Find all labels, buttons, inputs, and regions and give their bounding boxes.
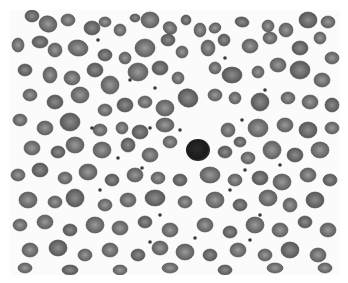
red-blood-cell [145, 190, 165, 206]
red-blood-cell [221, 123, 235, 137]
platelet [178, 128, 182, 132]
red-blood-cell [229, 92, 241, 104]
red-blood-cell [131, 249, 145, 261]
red-blood-cell [208, 89, 222, 101]
red-blood-cell [162, 263, 178, 273]
red-blood-cell [58, 172, 72, 184]
red-blood-cell [43, 67, 57, 83]
red-blood-cell [323, 174, 337, 186]
red-blood-cell [62, 265, 78, 275]
platelet [98, 188, 102, 192]
platelet [263, 88, 267, 92]
red-blood-cell [32, 36, 48, 48]
red-blood-cell [161, 34, 175, 46]
red-blood-cell [163, 136, 177, 148]
platelet [193, 236, 197, 240]
red-blood-cell [290, 61, 310, 79]
red-blood-cell [283, 198, 297, 212]
red-blood-cell [173, 174, 187, 186]
red-blood-cell [116, 122, 128, 134]
red-blood-cell [93, 142, 111, 158]
red-blood-cell [281, 92, 295, 104]
red-blood-cell [102, 243, 118, 257]
red-blood-cell [138, 96, 152, 108]
red-blood-cell [101, 76, 119, 94]
red-blood-cell [18, 64, 32, 76]
platelet [90, 126, 94, 130]
red-blood-cell [61, 14, 75, 26]
red-blood-cell [117, 98, 133, 112]
red-blood-cell [48, 196, 62, 208]
red-blood-cell [60, 113, 80, 131]
red-blood-cell [252, 171, 268, 185]
red-blood-cell [86, 217, 104, 233]
red-blood-cell [130, 14, 140, 22]
red-blood-cell [311, 142, 329, 158]
red-blood-cell [321, 16, 335, 28]
red-blood-cell [79, 164, 97, 180]
red-blood-cell [197, 218, 213, 232]
red-blood-cell [218, 265, 232, 275]
red-blood-cell [302, 95, 318, 109]
red-blood-cell [138, 216, 152, 228]
red-blood-cell [132, 125, 148, 139]
red-blood-cell [228, 174, 242, 186]
red-blood-cell [13, 219, 27, 231]
red-blood-cell [263, 32, 277, 44]
red-blood-cell [23, 89, 37, 101]
red-blood-cell [206, 192, 224, 208]
red-blood-cell [203, 249, 217, 261]
red-blood-cell [287, 148, 303, 162]
red-blood-cell [99, 17, 111, 27]
red-blood-cell [64, 71, 80, 85]
red-blood-cell [277, 118, 293, 132]
red-blood-cell [299, 12, 317, 28]
red-blood-cell [310, 248, 326, 262]
platelet [258, 213, 262, 217]
red-blood-cell [218, 146, 232, 158]
red-blood-cell [314, 32, 326, 44]
red-blood-cell [194, 23, 206, 37]
red-blood-cell [299, 122, 317, 138]
red-blood-cell [251, 93, 269, 111]
red-blood-cell [181, 15, 191, 25]
red-blood-cell [152, 61, 168, 75]
red-blood-cell [48, 43, 62, 57]
red-blood-cell [47, 95, 63, 109]
red-blood-cell [87, 63, 103, 77]
red-blood-cell [279, 23, 293, 37]
red-blood-cell [135, 39, 155, 57]
red-blood-cell [218, 34, 230, 46]
red-blood-cell [233, 199, 247, 211]
red-blood-cell [71, 87, 89, 103]
red-blood-cell [320, 223, 336, 237]
red-blood-cell [242, 39, 258, 53]
red-blood-cell [128, 63, 148, 81]
red-blood-cells [11, 10, 339, 275]
red-blood-cell [19, 192, 37, 208]
red-blood-cell [25, 10, 39, 22]
red-blood-cell [176, 244, 194, 260]
red-blood-cell [32, 163, 48, 177]
red-blood-cell [18, 263, 32, 273]
red-blood-cell [12, 38, 24, 52]
red-blood-cell [263, 141, 281, 159]
red-blood-cell [176, 86, 201, 110]
red-blood-cell [272, 223, 288, 237]
red-blood-cell [176, 46, 188, 58]
platelet [228, 188, 232, 192]
red-blood-cell [306, 192, 324, 208]
red-blood-cell [151, 172, 165, 184]
red-blood-cell [201, 40, 215, 56]
red-blood-cell [114, 24, 126, 36]
platelet [158, 213, 162, 217]
platelet [128, 78, 132, 82]
platelet [248, 238, 252, 242]
red-blood-cell [98, 104, 112, 116]
red-blood-cell [234, 137, 246, 147]
platelet [148, 126, 152, 130]
lymphocyte [186, 139, 210, 161]
red-blood-cell [63, 224, 77, 236]
red-blood-cell [172, 72, 184, 84]
red-blood-cell [127, 168, 143, 182]
